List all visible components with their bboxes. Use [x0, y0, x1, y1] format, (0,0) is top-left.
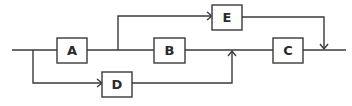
block-diagram: A B C D E [0, 0, 352, 106]
node-c: C [273, 38, 303, 63]
node-a-label: A [67, 43, 77, 58]
node-d: D [102, 72, 132, 97]
node-d-label: D [112, 77, 123, 92]
node-c-label: C [283, 43, 293, 58]
node-a: A [57, 38, 87, 63]
node-b-label: B [165, 43, 175, 58]
node-e: E [212, 5, 242, 30]
node-b: B [154, 38, 185, 63]
node-e-label: E [223, 10, 232, 25]
